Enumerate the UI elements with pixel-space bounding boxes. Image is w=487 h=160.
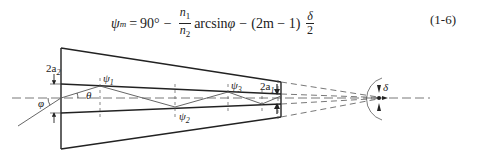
label-phi: φ [38, 97, 44, 109]
convergence-lines [281, 82, 378, 117]
core-outline [61, 84, 281, 113]
normal-lines [100, 78, 278, 120]
tapered-fiber-diagram: 2a2 ψ1 ψ2 ψ3 2a1 θ φ δ [0, 0, 487, 160]
label-delta: δ [383, 81, 389, 93]
label-psi2: ψ2 [179, 110, 190, 125]
cladding-outline [61, 48, 281, 149]
label-theta: θ [86, 89, 92, 101]
label-psi1: ψ1 [103, 72, 114, 87]
phi-arc [48, 98, 50, 105]
label-2a2: 2a2 [46, 62, 60, 77]
theta-arc [77, 93, 78, 98]
